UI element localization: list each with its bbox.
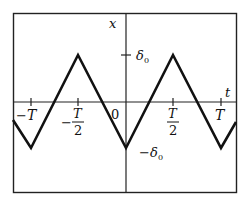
plot-frame [14, 14, 237, 193]
svg-text:0: 0 [158, 153, 163, 162]
svg-text:δ: δ [150, 145, 158, 160]
minus-T-label: − T [16, 107, 38, 123]
svg-text:2: 2 [74, 123, 82, 138]
svg-text:T: T [73, 106, 83, 121]
svg-text:2: 2 [169, 123, 177, 138]
T-label: T [215, 107, 226, 123]
origin-label: 0 [111, 107, 119, 122]
svg-text:−: − [139, 145, 150, 160]
svg-text:T: T [27, 107, 38, 123]
triangular-wave-diagram: x t 0 δ 0 − δ 0 − T − T 2 T 2 T [0, 0, 247, 204]
svg-text:δ: δ [136, 48, 144, 63]
x-axis-label: x [109, 16, 117, 31]
t-axis-label: t [225, 85, 231, 100]
svg-text:T: T [168, 106, 178, 121]
minus-half-T-label: − T 2 [61, 106, 84, 138]
minus-delta0-label: − δ 0 [139, 145, 163, 162]
half-T-label: T 2 [167, 106, 179, 138]
svg-text:0: 0 [144, 56, 149, 65]
svg-text:−: − [16, 108, 27, 123]
svg-text:−: − [61, 115, 72, 130]
delta0-label: δ 0 [136, 48, 149, 65]
